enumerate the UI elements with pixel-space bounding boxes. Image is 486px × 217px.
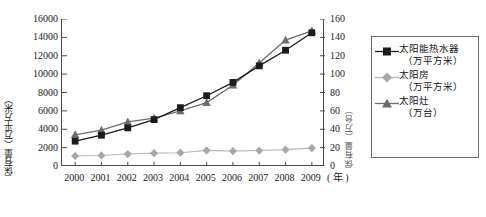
y-axis-left-tick-label: 8000 [38, 88, 58, 98]
triangle-marker-icon [375, 97, 399, 110]
y-axis-right-tick-label: 20 [330, 143, 340, 153]
legend-label-line1: 太阳能热水器 [399, 44, 459, 54]
legend-label-line2: （万平方米） [399, 56, 478, 68]
y-axis-right-tick-label: 120 [330, 51, 345, 61]
x-axis-tick-label: 2006 [222, 172, 242, 184]
legend-label-solar-house: 太阳房 （万平方米） [399, 70, 478, 93]
x-axis-ticks: 2000200120022003200420052006200720082009 [61, 172, 324, 188]
y-axis-left-tick-label: 2000 [38, 143, 58, 153]
diamond-marker-icon [375, 71, 399, 84]
y-axis-left-tick-label: 4000 [38, 124, 58, 134]
y-axis-right-title: 保有量（万台） [344, 48, 356, 168]
y-axis-left-tick-label: 0 [53, 161, 58, 171]
y-axis-left-tick-label: 16000 [33, 14, 58, 24]
chart-container: 保有量（万平方米） 保有量（万台） 1600014000120001000080… [0, 0, 486, 217]
legend-item-solar-house[interactable]: 太阳房 （万平方米） [372, 70, 478, 93]
legend-item-solar-water-heater[interactable]: 太阳能热水器 （万平方米） [372, 44, 478, 67]
legend-label-line2: （万平方米） [399, 82, 478, 94]
y-axis-right-tick-label: 100 [330, 69, 345, 79]
legend-item-solar-cooker[interactable]: 太阳灶 （万台） [372, 96, 478, 119]
x-axis-tick-label: 2002 [117, 172, 137, 184]
x-axis-tick-label: 2000 [64, 172, 84, 184]
y-axis-right-tick-label: 140 [330, 32, 345, 42]
y-axis-right-tick-label: 0 [330, 161, 335, 171]
x-axis-tick-label: 2004 [169, 172, 189, 184]
x-axis-tick-label: 2001 [90, 172, 110, 184]
square-marker-icon [375, 45, 399, 58]
legend-label-solar-cooker: 太阳灶 （万台） [399, 96, 478, 119]
x-axis-tick-label: 2007 [248, 172, 268, 184]
plot-area [61, 19, 324, 166]
y-axis-right-tick-label: 40 [330, 124, 340, 134]
x-axis-unit-label: ( 年 ) [327, 172, 349, 184]
legend-label-solar-water-heater: 太阳能热水器 （万平方米） [399, 44, 478, 67]
legend-label-line1: 太阳灶 [399, 96, 429, 106]
x-axis-tick-label: 2003 [143, 172, 163, 184]
x-axis-tick-label: 2008 [275, 172, 295, 184]
y-axis-left-tick-label: 12000 [33, 51, 58, 61]
y-axis-right-tick-label: 160 [330, 14, 345, 24]
legend-label-line2: （万台） [399, 108, 478, 120]
legend-label-line1: 太阳房 [399, 70, 429, 80]
y-axis-right-tick-label: 80 [330, 88, 340, 98]
x-axis-tick-label: 2005 [196, 172, 216, 184]
y-axis-left-tick-label: 10000 [33, 69, 58, 79]
chart-legend: 太阳能热水器 （万平方米） 太阳房 （万平方米） 太阳灶 （万台） [371, 36, 479, 158]
y-axis-left-tick-label: 14000 [33, 32, 58, 42]
y-axis-right-tick-label: 60 [330, 106, 340, 116]
y-axis-left-tick-label: 6000 [38, 106, 58, 116]
y-axis-left-title: 保有量（万平方米） [1, 26, 14, 176]
plot-svg [62, 19, 325, 166]
x-axis-tick-label: 2009 [301, 172, 321, 184]
